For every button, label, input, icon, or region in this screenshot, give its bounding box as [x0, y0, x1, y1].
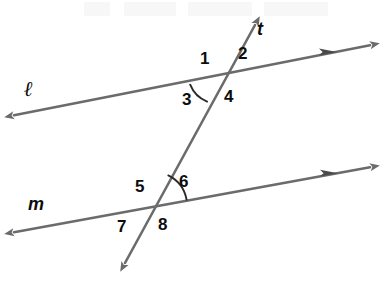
angle-label-8: 8	[158, 216, 167, 233]
line-l	[14, 45, 370, 115]
line-t-segment	[125, 25, 255, 263]
angle-arc-3	[190, 85, 207, 102]
angle-label-7: 7	[117, 218, 126, 235]
angle-label-1: 1	[200, 50, 209, 67]
line-label-m: m	[28, 195, 44, 213]
line-label-l: ℓ	[24, 79, 33, 100]
angle-label-3: 3	[182, 91, 191, 108]
geometry-canvas	[0, 0, 380, 282]
line-m-segment	[14, 167, 370, 232]
geometry-figure: ℓ m t 1 2 3 4 5 6 7 8	[0, 0, 380, 282]
line-l-segment	[14, 45, 370, 115]
line-label-t: t	[257, 20, 263, 38]
angle-label-6: 6	[179, 173, 188, 190]
line-t	[125, 25, 255, 263]
line-m	[14, 167, 370, 232]
angle-label-4: 4	[224, 88, 233, 105]
angle-label-5: 5	[135, 178, 144, 195]
angle-label-2: 2	[238, 45, 247, 62]
